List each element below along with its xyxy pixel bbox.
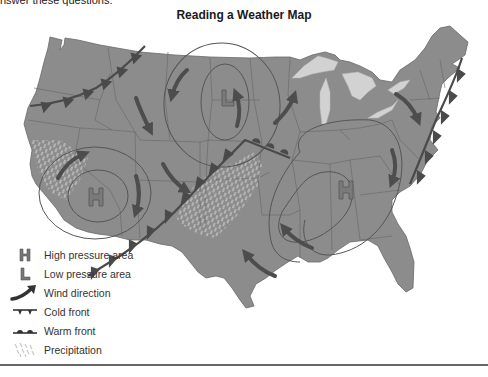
legend-item-low-pressure: Low pressure area bbox=[10, 265, 131, 283]
precipitation-icon bbox=[10, 341, 40, 359]
legend-item-high-pressure: High pressure area bbox=[10, 246, 133, 264]
legend-item-cold-front: Cold front bbox=[10, 303, 90, 321]
warm-front-icon bbox=[10, 322, 40, 340]
legend-label: Warm front bbox=[44, 325, 96, 337]
legend-label: Wind direction bbox=[44, 287, 111, 299]
legend-item-wind-direction: Wind direction bbox=[10, 284, 111, 302]
legend-label: Cold front bbox=[44, 306, 90, 318]
low-pressure-icon bbox=[10, 265, 40, 283]
legend-label: Low pressure area bbox=[44, 268, 131, 280]
legend-item-warm-front: Warm front bbox=[10, 322, 96, 340]
cold-front-icon bbox=[10, 303, 40, 321]
wind-arrow-icon bbox=[10, 284, 40, 302]
bottom-divider bbox=[0, 364, 488, 366]
legend-label: High pressure area bbox=[44, 249, 133, 261]
legend-item-precipitation: Precipitation bbox=[10, 341, 102, 359]
high-pressure-icon bbox=[10, 246, 40, 264]
legend-label: Precipitation bbox=[44, 344, 102, 356]
